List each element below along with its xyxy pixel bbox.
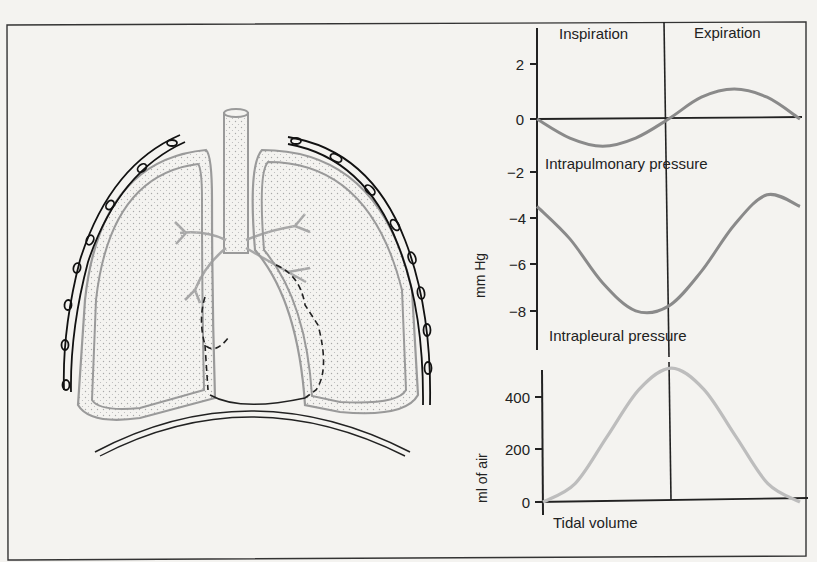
volume-y-axis	[542, 370, 543, 515]
pressure-ticks	[530, 64, 537, 311]
trachea	[224, 109, 248, 253]
phase-divider-lower	[669, 362, 671, 500]
volume-ticks	[535, 397, 542, 502]
intrapleural-label: Intrapleural pressure	[549, 328, 687, 343]
tidal-volume-chart	[535, 362, 808, 515]
diaphragm-inner	[100, 417, 405, 456]
pressure-chart	[530, 22, 802, 357]
tidal-volume-label: Tidal volume	[553, 515, 637, 530]
tick-volume-0: 0	[490, 495, 530, 510]
tick-minus-4: −4	[486, 211, 526, 226]
tick-2: 2	[484, 57, 524, 72]
tick-minus-8: −8	[486, 304, 526, 319]
expiration-label: Expiration	[694, 25, 761, 40]
intrapulmonary-label: Intrapulmonary pressure	[545, 156, 708, 171]
respiration-figure: Inspiration Expiration 2 0 −2 −4 −6 −8 m…	[0, 0, 817, 562]
tick-200: 200	[490, 442, 530, 457]
tick-400: 400	[490, 390, 530, 405]
left-lung	[253, 150, 418, 413]
lung-illustration	[62, 109, 432, 456]
tick-minus-6: −6	[486, 257, 526, 272]
heart-base	[210, 395, 305, 404]
volume-axis-label: ml of air	[474, 453, 490, 503]
volume-baseline	[536, 498, 808, 502]
tick-0: 0	[484, 112, 524, 127]
inspiration-label: Inspiration	[559, 26, 628, 41]
tick-minus-2: −2	[484, 165, 524, 180]
figure-canvas	[0, 0, 817, 562]
pressure-axis-label: mm Hg	[472, 253, 488, 298]
